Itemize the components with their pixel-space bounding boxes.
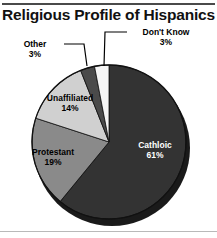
pie-label-other-name: Other bbox=[24, 39, 47, 49]
chart-figure: Religious Profile of Hispanics bbox=[0, 0, 217, 238]
figure-bottom-divider bbox=[0, 231, 217, 232]
leader-line-dont-know bbox=[104, 32, 127, 66]
pie-label-protestant-name: Protestant bbox=[32, 147, 74, 157]
pie-label-other-value: 3% bbox=[6, 50, 64, 60]
pie-label-cathloic-value: 61% bbox=[122, 151, 188, 161]
pie-label-dont-know-value: 3% bbox=[128, 38, 204, 48]
pie-label-unaffiliated-name: Unaffiliated bbox=[47, 93, 93, 103]
pie-label-protestant-value: 19% bbox=[11, 158, 95, 168]
leader-line-other bbox=[64, 44, 87, 66]
pie-label-unaffiliated: Unaffiliated 14% bbox=[27, 94, 113, 113]
pie-label-other: Other 3% bbox=[6, 40, 64, 59]
pie-label-protestant: Protestant 19% bbox=[11, 148, 95, 167]
pie-label-dont-know: Don't Know 3% bbox=[128, 28, 204, 47]
pie-label-cathloic-name: Cathloic bbox=[138, 140, 172, 150]
pie-label-cathloic: Cathloic 61% bbox=[122, 141, 188, 160]
pie-label-dont-know-name: Don't Know bbox=[143, 27, 190, 37]
pie-label-unaffiliated-value: 14% bbox=[27, 104, 113, 114]
